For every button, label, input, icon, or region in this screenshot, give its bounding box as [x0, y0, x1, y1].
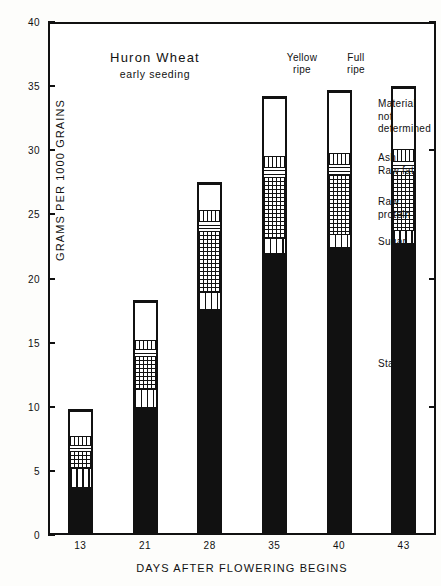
- bar-segment-raw-protein: [199, 231, 220, 292]
- x-tick-label-40: 40: [333, 540, 345, 551]
- x-axis-title: DAYS AFTER FLOWERING BEGINS: [48, 562, 436, 574]
- legend-line-1: Material: [378, 98, 431, 111]
- segment-divider: [70, 411, 91, 412]
- y-axis-title: GRAMS PER 1000 GRAINS: [54, 80, 66, 280]
- bar-day-13: [68, 409, 93, 535]
- bar-segment-material-not-determined: [70, 411, 91, 436]
- bar-segment-raw-fat: [199, 221, 220, 231]
- legend-line-2: protein: [378, 209, 411, 222]
- x-tick-label-35: 35: [268, 540, 280, 551]
- segment-divider: [199, 221, 220, 222]
- legend-label-ash: Ash: [378, 152, 396, 165]
- y-tick-mark-right-10: [429, 406, 436, 408]
- segment-divider: [135, 389, 156, 390]
- segment-divider: [393, 88, 414, 89]
- bar-segment-raw-protein: [264, 177, 285, 238]
- segment-divider: [199, 210, 220, 211]
- bar-segment-starch: [70, 487, 91, 533]
- bar-segment-material-not-determined: [199, 184, 220, 209]
- segment-divider: [135, 302, 156, 303]
- bar-segment-ash: [329, 153, 350, 164]
- bar-segment-material-not-determined: [264, 98, 285, 155]
- segment-divider: [135, 349, 156, 350]
- segment-divider: [264, 156, 285, 157]
- bar-segment-ash: [199, 210, 220, 221]
- y-tick-label-40: 40: [0, 17, 48, 28]
- bar-segment-material-not-determined: [135, 302, 156, 340]
- segment-divider: [135, 340, 156, 341]
- bar-segment-starch: [329, 247, 350, 533]
- bar-segment-sugar: [70, 468, 91, 487]
- segment-divider: [393, 161, 414, 162]
- bar-segment-starch: [264, 253, 285, 533]
- y-tick-mark-right-20: [429, 278, 436, 280]
- y-tick-label-20: 20: [0, 273, 48, 284]
- legend-label-material-not-determined: Material not determined: [378, 98, 431, 136]
- bar-day-40: [327, 90, 352, 535]
- bar-segment-ash: [70, 436, 91, 445]
- chart-title-block: Huron Wheat early seeding: [80, 50, 230, 80]
- legend-line-1: Raw: [378, 196, 411, 209]
- chart-page: GRAMS PER 1000 GRAINS 0510152025303540 1…: [0, 0, 441, 586]
- legend-line-2: not: [378, 111, 431, 124]
- bar-segment-material-not-determined: [329, 92, 350, 153]
- y-tick-mark-right-30: [429, 149, 436, 151]
- segment-divider: [329, 164, 350, 165]
- bar-segment-raw-protein: [135, 356, 156, 389]
- segment-divider: [70, 451, 91, 452]
- annotation-line-1: Yellow: [287, 52, 317, 64]
- y-tick-mark-right-40: [429, 21, 436, 23]
- bar-segment-ash: [264, 156, 285, 167]
- legend-label-sugar: Sugar: [378, 236, 406, 249]
- segment-divider: [199, 231, 220, 232]
- segment-divider: [329, 234, 350, 235]
- y-tick-mark-25: [48, 213, 55, 215]
- y-tick-mark-10: [48, 406, 55, 408]
- chart-title: Huron Wheat: [80, 50, 230, 65]
- bar-segment-sugar: [199, 292, 220, 308]
- bar-segment-sugar: [264, 238, 285, 253]
- segment-divider: [264, 167, 285, 168]
- chart-subtitle: early seeding: [80, 68, 230, 80]
- x-tick-label-43: 43: [398, 540, 410, 551]
- legend-label-starch: Starch: [378, 358, 409, 371]
- bar-segment-starch: [135, 407, 156, 533]
- segment-divider: [329, 92, 350, 93]
- bar-day-28: [197, 182, 222, 535]
- bar-segment-raw-protein: [329, 175, 350, 235]
- bar-segment-starch: [199, 309, 220, 533]
- segment-divider: [329, 153, 350, 154]
- y-tick-label-25: 25: [0, 209, 48, 220]
- bar-segment-starch: [393, 243, 414, 533]
- legend-label-raw-protein: Raw protein: [378, 196, 411, 221]
- bar-segment-raw-fat: [135, 349, 156, 357]
- legend-line-3: determined: [378, 123, 431, 136]
- bar-segment-raw-protein: [70, 451, 91, 468]
- bar-segment-raw-fat: [70, 445, 91, 451]
- bar-segment-raw-fat: [329, 164, 350, 174]
- segment-divider: [70, 468, 91, 469]
- y-tick-label-0: 0: [0, 530, 48, 541]
- segment-divider: [70, 436, 91, 437]
- y-tick-mark-15: [48, 342, 55, 344]
- bar-segment-ash: [393, 149, 414, 160]
- x-tick-label-21: 21: [139, 540, 151, 551]
- segment-divider: [199, 292, 220, 293]
- segment-divider: [135, 356, 156, 357]
- segment-divider: [264, 177, 285, 178]
- segment-divider: [264, 238, 285, 239]
- y-tick-mark-40: [48, 21, 55, 23]
- bar-segment-raw-fat: [264, 167, 285, 177]
- bar-segment-ash: [135, 340, 156, 349]
- legend-label-raw-fat: Raw fat: [378, 165, 414, 178]
- x-tick-label-13: 13: [74, 540, 86, 551]
- y-tick-mark-0: [48, 534, 55, 536]
- y-tick-mark-35: [48, 85, 55, 87]
- y-tick-label-5: 5: [0, 465, 48, 476]
- annotation-line-2: ripe: [287, 64, 317, 76]
- bar-day-35: [262, 96, 287, 535]
- x-tick-label-28: 28: [204, 540, 216, 551]
- y-tick-mark-5: [48, 470, 55, 472]
- segment-divider: [393, 149, 414, 150]
- segment-divider: [393, 230, 414, 231]
